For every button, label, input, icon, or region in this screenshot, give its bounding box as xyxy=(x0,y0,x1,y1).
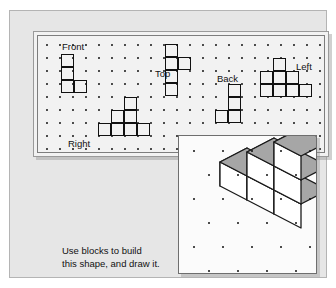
shape-cell xyxy=(137,123,150,136)
grid-dot xyxy=(85,122,87,124)
grid-dot xyxy=(306,109,308,111)
shape-cell xyxy=(228,110,241,123)
grid-dot xyxy=(85,57,87,59)
grid-dot xyxy=(319,96,321,98)
caption-line-1: Use blocks to build xyxy=(62,245,160,258)
view-label-front: Front xyxy=(62,42,84,52)
grid-dot xyxy=(124,44,126,46)
grid-dot xyxy=(111,70,113,72)
grid-dot xyxy=(176,96,178,98)
grid-dot xyxy=(150,135,152,137)
grid-dot xyxy=(202,70,204,72)
shape-cell xyxy=(61,67,74,80)
grid-dot xyxy=(241,70,243,72)
grid-dot xyxy=(163,96,165,98)
worksheet-page: FrontTopBackLeftRight Use blocks to buil… xyxy=(0,0,336,288)
grid-dot xyxy=(59,148,61,150)
grid-dot xyxy=(163,148,165,150)
grid-dot xyxy=(254,70,256,72)
grid-dot xyxy=(241,83,243,85)
grid-dot xyxy=(163,135,165,137)
grid-dot xyxy=(241,122,243,124)
grid-dot xyxy=(215,70,217,72)
grid-dot xyxy=(111,83,113,85)
grid-dot xyxy=(189,122,191,124)
grid-dot xyxy=(59,44,61,46)
grid-dot xyxy=(228,57,230,59)
grid-dot xyxy=(137,109,139,111)
grid-dot xyxy=(267,109,269,111)
grid-dot xyxy=(202,122,204,124)
grid-dot xyxy=(267,122,269,124)
grid-dot xyxy=(163,109,165,111)
grid-dot xyxy=(176,109,178,111)
grid-dot xyxy=(189,44,191,46)
grid-dot xyxy=(241,96,243,98)
grid-dot xyxy=(202,44,204,46)
grid-dot xyxy=(59,135,61,137)
shape-cell xyxy=(178,57,191,70)
grid-dot xyxy=(111,148,113,150)
grid-dot xyxy=(72,109,74,111)
grid-dot xyxy=(72,135,74,137)
grid-dot xyxy=(111,96,113,98)
shape-cell xyxy=(228,84,241,97)
worksheet-card: FrontTopBackLeftRight Use blocks to buil… xyxy=(9,10,327,278)
iso-grid-dot xyxy=(237,222,239,224)
grid-dot xyxy=(150,109,152,111)
grid-dot xyxy=(241,44,243,46)
grid-dot xyxy=(293,109,295,111)
grid-dot xyxy=(189,109,191,111)
grid-dot xyxy=(254,57,256,59)
view-label-left: Left xyxy=(296,62,312,72)
grid-dot xyxy=(150,148,152,150)
shape-cell xyxy=(74,80,87,93)
shape-cell xyxy=(165,44,178,57)
grid-dot xyxy=(202,96,204,98)
grid-dot xyxy=(267,44,269,46)
grid-dot xyxy=(280,122,282,124)
grid-dot xyxy=(124,83,126,85)
grid-dot xyxy=(124,57,126,59)
grid-dot xyxy=(228,70,230,72)
grid-dot xyxy=(137,96,139,98)
shape-cell xyxy=(286,71,299,84)
iso-grid-dot xyxy=(208,174,210,176)
grid-dot xyxy=(137,44,139,46)
grid-dot xyxy=(98,96,100,98)
shape-cell xyxy=(124,110,137,123)
grid-dot xyxy=(85,44,87,46)
grid-dot xyxy=(59,109,61,111)
grid-dot xyxy=(189,83,191,85)
grid-dot xyxy=(163,122,165,124)
grid-dot xyxy=(98,148,100,150)
grid-dot xyxy=(267,57,269,59)
grid-dot xyxy=(228,44,230,46)
grid-dot xyxy=(98,44,100,46)
grid-dot xyxy=(46,70,48,72)
grid-dot xyxy=(189,70,191,72)
shape-cell xyxy=(61,80,74,93)
iso-grid-dot xyxy=(295,174,297,176)
iso-grid-dot xyxy=(295,222,297,224)
grid-dot xyxy=(241,109,243,111)
grid-dot xyxy=(46,44,48,46)
grid-dot xyxy=(293,122,295,124)
shape-cell xyxy=(260,71,273,84)
grid-dot xyxy=(241,57,243,59)
grid-dot xyxy=(293,44,295,46)
grid-dot xyxy=(254,44,256,46)
shape-cell xyxy=(111,110,124,123)
grid-dot xyxy=(98,57,100,59)
grid-dot xyxy=(280,44,282,46)
grid-dot xyxy=(319,57,321,59)
grid-dot xyxy=(319,70,321,72)
shape-cell xyxy=(260,84,273,97)
iso-grid-dot xyxy=(295,270,297,272)
grid-dot xyxy=(306,122,308,124)
shape-cell xyxy=(111,123,124,136)
grid-dot xyxy=(319,83,321,85)
grid-dot xyxy=(202,109,204,111)
grid-dot xyxy=(319,135,321,137)
grid-dot xyxy=(46,57,48,59)
